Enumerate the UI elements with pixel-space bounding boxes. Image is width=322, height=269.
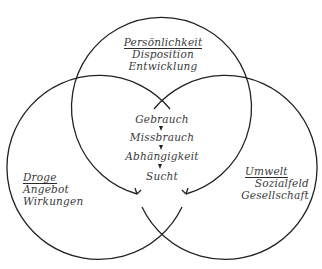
label-society: Gesellschaft <box>227 189 309 201</box>
label-supply: Angebot <box>23 183 83 195</box>
label-social-field: Sozialfeld <box>227 177 309 189</box>
stage-dependence: Abhängigkeit <box>116 150 208 162</box>
label-disposition: Disposition <box>118 48 208 60</box>
arrow-down-icon <box>158 164 162 169</box>
stage-misuse: Missbrauch <box>122 131 202 143</box>
label-development: Entwicklung <box>118 60 208 72</box>
label-group-drug: Droge Angebot Wirkungen <box>23 171 83 207</box>
stage-use: Gebrauch <box>122 113 202 125</box>
stage-addiction: Sucht <box>122 170 202 182</box>
label-group-personality: Persönlichkeit Disposition Entwicklung <box>118 36 208 72</box>
label-effects: Wirkungen <box>23 195 83 207</box>
label-group-environment: Umwelt Sozialfeld Gesellschaft <box>227 165 309 201</box>
